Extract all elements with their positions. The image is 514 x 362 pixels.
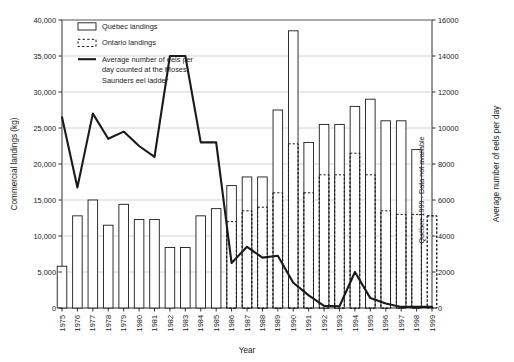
bar-quebec: [119, 204, 129, 308]
x-tick-label: 1998: [412, 315, 421, 331]
bar-quebec: [304, 142, 314, 308]
x-tick-label: 1992: [320, 315, 329, 331]
y2-tick-label: 8000: [438, 160, 454, 169]
x-tick-label: 1983: [181, 315, 190, 331]
bar-quebec: [288, 31, 298, 308]
x-tick-label: 1982: [166, 315, 175, 331]
y-tick-label: 35,000: [33, 52, 56, 61]
x-tick-label: 1978: [104, 315, 113, 331]
y-tick-label: 10,000: [33, 232, 56, 241]
x-tick-label: 1984: [196, 315, 205, 331]
bar-quebec: [227, 186, 237, 308]
y-tick-label: 5,000: [38, 268, 57, 277]
x-tick-label: 1988: [258, 315, 267, 331]
y2-axis-title: Average number of eels per day: [492, 105, 501, 222]
x-axis-title: Year: [239, 346, 256, 355]
y2-tick-label: 2000: [438, 268, 454, 277]
bar-quebec: [258, 177, 268, 308]
bar-quebec: [165, 248, 175, 308]
y-tick-label: 0: [52, 304, 56, 313]
x-tick-label: 1989: [273, 315, 282, 331]
legend-label-eel-line-3: Saunders eel ladder: [102, 76, 169, 85]
y2-tick-label: 16000: [438, 16, 459, 25]
x-tick-label: 1986: [227, 315, 236, 331]
y2-tick-label: 6000: [438, 196, 454, 205]
bar-quebec: [335, 124, 345, 308]
bar-quebec: [242, 177, 252, 308]
legend-label-quebec: Québec landings: [102, 22, 158, 31]
y2-tick-label: 10000: [438, 124, 459, 133]
x-tick-label: 1977: [88, 315, 97, 331]
y-tick-label: 25,000: [33, 124, 56, 133]
x-tick-label: 1997: [397, 315, 406, 331]
bar-quebec: [134, 219, 144, 308]
x-tick-label: 1999: [428, 315, 437, 331]
eel-landings-chart: 05,00010,00015,00020,00025,00030,00035,0…: [0, 0, 514, 362]
x-tick-label: 1981: [150, 315, 159, 331]
x-tick-label: 1975: [58, 315, 67, 331]
bar-quebec: [150, 219, 160, 308]
x-tick-label: 1976: [73, 315, 82, 331]
y-tick-label: 40,000: [33, 16, 56, 25]
bar-quebec: [73, 216, 83, 308]
bar-quebec: [381, 121, 391, 308]
legend-label-eel-line-2: day counted at the Moses-: [102, 65, 190, 74]
bar-quebec: [366, 99, 376, 308]
bar-quebec: [319, 124, 329, 308]
y2-tick-label: 0: [438, 304, 442, 313]
x-tick-label: 1980: [135, 315, 144, 331]
bar-quebec: [88, 200, 98, 308]
x-tick-label: 1993: [335, 315, 344, 331]
y2-tick-label: 4000: [438, 232, 454, 241]
y-tick-label: 30,000: [33, 88, 56, 97]
x-tick-label: 1994: [351, 315, 360, 331]
legend-marker-quebec: [78, 23, 96, 30]
x-tick-label: 1991: [304, 315, 313, 331]
x-tick-label: 1990: [289, 315, 298, 331]
y2-tick-label: 12000: [438, 88, 459, 97]
bar-quebec: [181, 248, 191, 308]
y2-tick-label: 14000: [438, 52, 459, 61]
chart-container: 05,00010,00015,00020,00025,00030,00035,0…: [0, 0, 514, 362]
y-tick-label: 20,000: [33, 160, 56, 169]
x-tick-label: 1987: [243, 315, 252, 331]
annotation-quebec-1999: Québec 1999 - Data not available: [417, 136, 426, 243]
bar-quebec: [211, 209, 221, 308]
bar-quebec: [196, 216, 206, 308]
legend-label-ontario: Ontario landings: [102, 38, 156, 47]
x-tick-label: 1985: [212, 315, 221, 331]
x-tick-label: 1979: [119, 315, 128, 331]
bar-quebec: [103, 225, 113, 308]
legend-label-eel-line-1: Average number of eels per: [102, 55, 194, 64]
y-tick-label: 15,000: [33, 196, 56, 205]
y-axis-title: Commercial landings (kg): [10, 117, 19, 210]
bar-quebec: [57, 266, 67, 308]
bar-quebec: [273, 110, 283, 308]
x-tick-label: 1996: [381, 315, 390, 331]
x-tick-label: 1995: [366, 315, 375, 331]
